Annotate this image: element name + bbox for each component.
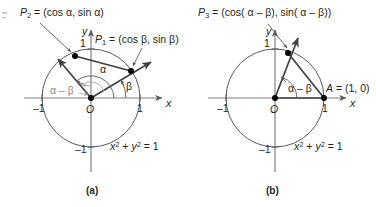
panel-b: P3 = (cos( α – β), sin( α – β)) A = (1, … [198, 6, 370, 196]
panel-b-tick-label-y-pos: 1 [264, 37, 270, 49]
panel-a-point-origin [88, 95, 94, 101]
panel-a-arc-beta-arrowhead [121, 80, 124, 86]
panel-a-circle-equation: x2 + y2 = 1 [109, 140, 159, 152]
panel-a-tick-label-x-pos: 1 [137, 102, 143, 114]
panel-b-axis-y-label: y [265, 25, 272, 37]
panel-b-circle-equation: x2 + y2 = 1 [293, 140, 343, 152]
panel-a-label-beta: β [126, 80, 132, 92]
panel-a-label-p2: P2 = (cos α, sin α) [20, 6, 104, 20]
panel-a-origin-label: O [86, 103, 94, 115]
panel-a-label-alpha-minus-beta: α – β [50, 84, 74, 96]
panel-a-point-p1 [128, 68, 134, 74]
panel-a: P2 = (cos α, sin α) P1 = (cos β, sin β) … [20, 6, 179, 196]
panel-b-label-a: A = (1, 0) [325, 82, 370, 94]
panel-a-leader-p2 [40, 23, 71, 52]
panel-b-point-p3 [285, 50, 291, 56]
panel-b-axis-x-label: x [349, 97, 356, 109]
panel-a-point-p2 [72, 53, 78, 59]
panel-b-label-alpha-minus-beta: α – β [288, 82, 312, 94]
panel-a-label-p1: P1 = (cos β, sin β) [95, 33, 179, 47]
panel-b-point-origin [272, 95, 278, 101]
panel-a-leader-p1 [133, 48, 142, 66]
panel-b-point-a [321, 95, 327, 101]
panel-a-tick-label-y-neg: –1 [75, 143, 87, 155]
panel-a-axis-y-label: y [81, 25, 88, 37]
panel-a-tick-label-x-neg: –1 [33, 102, 45, 114]
panel-b-tick-label-x-neg: –1 [217, 102, 229, 114]
panel-b-label-p3: P3 = (cos( α – β), sin( α – β)) [198, 6, 331, 20]
figure-canvas: P2 = (cos α, sin α) P1 = (cos β, sin β) … [0, 0, 376, 207]
panel-b-tick-label-y-neg: –1 [259, 143, 271, 155]
panel-a-tick-label-y-pos: 1 [80, 37, 86, 49]
trigonometry-figure: P2 = (cos α, sin α) P1 = (cos β, sin β) … [0, 0, 376, 207]
edge-crop-mark [2, 12, 7, 18]
panel-a-axis-x-label: x [165, 97, 172, 109]
panel-b-caption: (b) [266, 185, 279, 196]
panel-b-origin-label: O [270, 103, 278, 115]
panel-a-arc-amb-arrowhead [82, 85, 90, 86]
panel-a-caption: (a) [86, 185, 98, 196]
panel-a-label-alpha: α [100, 63, 106, 75]
panel-b-tick-label-x-pos: 1 [322, 102, 328, 114]
